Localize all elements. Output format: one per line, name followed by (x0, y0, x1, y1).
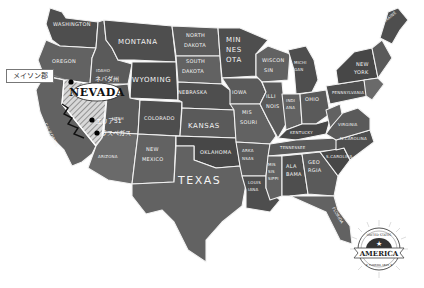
marker-mason-county[interactable] (68, 79, 73, 84)
label-illinois-1: ILLI (266, 93, 276, 99)
label-louisiana-2: IANA (248, 187, 259, 192)
label-nevada: NEVADA (69, 86, 125, 99)
label-minnesota-1: MIN (226, 36, 241, 44)
label-georgia-1: GEO (308, 159, 320, 165)
label-wyoming: WYOMING (132, 76, 171, 84)
label-alabama-2: BAMA (286, 171, 302, 177)
label-new-mexico-2: MEXICO (142, 156, 164, 162)
label-mississippi-1: MIS (268, 162, 276, 167)
label-colorado: COLORADO (144, 115, 175, 121)
label-iowa: IOWA (232, 89, 247, 95)
label-north-carolina: N.CAROLINA (340, 136, 367, 141)
label-indiana-2: ANA (286, 105, 295, 110)
mason-county-callout: メイソン郡 (6, 69, 54, 83)
label-illinois-2: NOIS (266, 103, 280, 109)
label-idaho: IDAHO (96, 68, 110, 73)
label-oregon: OREGON (52, 58, 76, 64)
label-arizona: ARIZONA (98, 154, 118, 159)
label-michigan-2: GAN (294, 67, 303, 72)
state-wisconsin[interactable] (256, 46, 290, 82)
label-nebraska: NEBRASKA (178, 89, 207, 95)
label-north-dakota-2: DAKOTA (184, 42, 206, 48)
label-arkansas-1: ARKA (242, 148, 254, 153)
label-arkansas-2: NSAS (242, 156, 254, 161)
state-washington[interactable] (46, 8, 98, 48)
label-wisconsin-1: WISCON (262, 57, 285, 63)
label-mississippi-2: SIS (268, 169, 275, 174)
label-area-51: エリア51 (96, 117, 122, 124)
label-las-vegas: ラスベガス (101, 129, 131, 137)
badge-bottom-text: ★ FLORIDA 1845 ★ (366, 263, 393, 267)
badge-main-text: AMERICA (359, 249, 399, 258)
label-kansas: KANSAS (188, 122, 220, 130)
label-new-mexico-1: NEW (146, 146, 159, 152)
label-texas: TEXAS (177, 174, 221, 187)
label-minnesota-3: OTA (226, 56, 242, 64)
badge-star-icon: ★ (376, 240, 382, 247)
label-minnesota-2: NES (226, 46, 242, 54)
label-oklahoma: OKLAHOMA (200, 149, 232, 155)
label-pennsylvania: PENNSYLVANIA (332, 90, 364, 95)
label-south-carolina: S.CAROLINA (326, 154, 352, 159)
label-south-dakota-2: DAKOTA (182, 68, 204, 74)
state-mid-atlantic[interactable] (364, 78, 384, 100)
america-badge: ★ UNITED STATES AMERICA ★ FLORIDA 1845 ★ (348, 218, 410, 280)
marker-las-vegas[interactable] (94, 130, 99, 135)
badge-top-text: UNITED STATES (367, 233, 392, 237)
label-missouri-1: MIS (242, 109, 252, 115)
label-new-york-2: YORK (353, 69, 369, 75)
label-georgia-2: RGIA (308, 167, 322, 173)
label-mississippi-3: SIPPI (268, 176, 279, 181)
label-wisconsin-2: SIN (264, 67, 273, 73)
state-north-dakota[interactable] (172, 26, 220, 56)
label-virginia: VIRGINIA (338, 122, 358, 127)
label-kentucky: KENTUCKY (290, 130, 313, 135)
label-ohio: OHIO (305, 96, 319, 102)
label-indiana-1: INDI (286, 98, 295, 103)
label-nevada-jp: ネバダ州 (95, 75, 119, 83)
label-washington: WASHINGTON (53, 21, 91, 27)
label-louisiana-1: LOUIS (248, 180, 261, 185)
label-south-dakota-1: SOUTH (186, 58, 205, 64)
marker-area-51[interactable] (89, 117, 94, 122)
label-new-york-1: NEW (356, 61, 369, 67)
label-north-dakota-1: NORTH (186, 32, 205, 38)
label-tennessee: TENNESSEE (279, 145, 306, 150)
label-alabama-1: ALA (286, 163, 297, 169)
state-nebraska[interactable] (178, 82, 234, 110)
label-missouri-2: SOURI (240, 119, 257, 125)
label-michigan-1: MICHI (294, 60, 307, 65)
label-montana: MONTANA (118, 38, 158, 46)
